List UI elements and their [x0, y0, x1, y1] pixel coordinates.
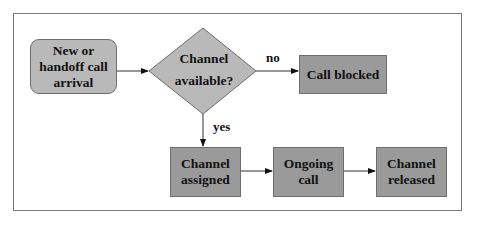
edge-label-yes: yes — [213, 119, 230, 135]
node-call-blocked: Call blocked — [299, 55, 387, 94]
node-channel-released: Channel released — [376, 147, 447, 197]
node-ongoing-call: Ongoing call — [273, 147, 344, 197]
node-channel-assigned: Channel assigned — [170, 147, 241, 197]
edge-label-no: no — [266, 50, 280, 66]
node-channel-available-label: Channel available? — [159, 48, 249, 92]
node-call-arrival: New or handoff call arrival — [30, 39, 117, 94]
